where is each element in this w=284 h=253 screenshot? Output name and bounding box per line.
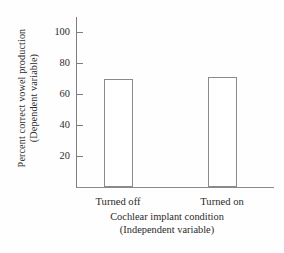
y-tick-mark	[77, 32, 83, 33]
x-axis-line	[76, 187, 274, 188]
y-tick-label: 80	[60, 58, 70, 68]
y-tick-label: 20	[60, 151, 70, 161]
y-tick-label: 40	[60, 120, 70, 130]
y-axis-title: Percent correct vowel production (Depend…	[0, 0, 56, 196]
plot-area: 20406080100 Turned offTurned on	[76, 17, 274, 187]
y-tick-mark	[77, 125, 83, 126]
x-axis-title-line2: (Independent variable)	[56, 223, 278, 236]
x-axis-title-line1: Cochlear implant condition	[56, 210, 278, 223]
y-tick-label: 60	[60, 89, 70, 99]
bar-chart-figure: Percent correct vowel production (Depend…	[0, 0, 284, 253]
y-axis-title-line1: Percent correct vowel production	[16, 29, 28, 168]
y-tick-mark	[77, 94, 83, 95]
bar-turned-off	[104, 79, 133, 187]
category-label-turned-off: Turned off	[95, 197, 140, 208]
y-tick-label: 100	[54, 27, 70, 37]
y-axis-title-line2: (Dependent variable)	[28, 29, 40, 168]
x-axis-title: Cochlear implant condition (Independent …	[56, 210, 278, 236]
y-tick-mark	[77, 63, 83, 64]
y-tick-mark	[77, 156, 83, 157]
bar-turned-on	[208, 77, 237, 187]
category-label-turned-on: Turned on	[200, 197, 243, 208]
y-axis-line	[76, 17, 77, 187]
